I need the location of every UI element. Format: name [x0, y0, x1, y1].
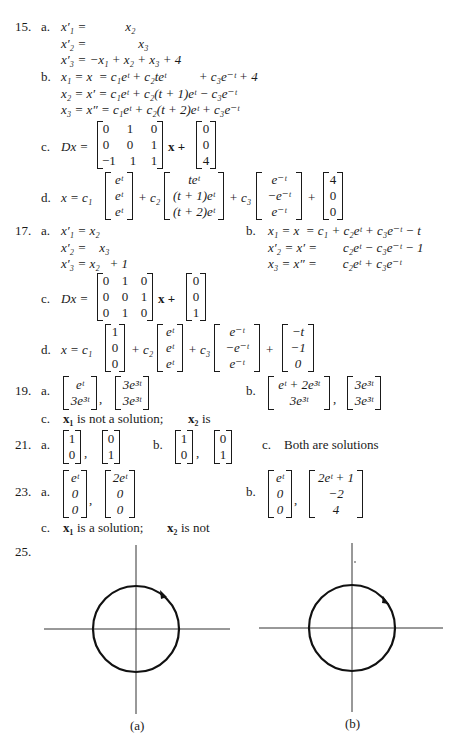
counterclockwise-arrow-icon	[382, 596, 389, 604]
phase-portrait-figures	[0, 0, 462, 742]
figure-a-caption: (a)	[130, 719, 144, 733]
figure-b	[259, 543, 443, 712]
figure-b-caption: (b)	[345, 717, 360, 731]
figure-a	[44, 545, 230, 714]
dot-mark	[354, 561, 356, 563]
